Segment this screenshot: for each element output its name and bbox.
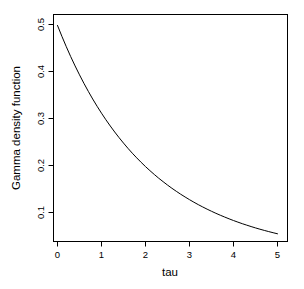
y-tick-label-0.2: 0.2 [35, 159, 46, 172]
y-axis-ticks [49, 25, 54, 213]
x-tick-label-2: 2 [143, 249, 148, 260]
gamma-density-plot: 0 1 2 3 4 5 0.1 0.2 0.3 0.4 0.5 tau Gamm… [0, 0, 304, 289]
y-tick-label-0.1: 0.1 [35, 206, 46, 219]
x-tick-label-3: 3 [187, 249, 192, 260]
plot-frame [54, 15, 288, 242]
y-tick-label-0.3: 0.3 [35, 112, 46, 125]
x-tick-label-4: 4 [231, 249, 236, 260]
x-tick-label-5: 5 [275, 249, 280, 260]
x-tick-label-0: 0 [55, 249, 60, 260]
x-tick-label-1: 1 [99, 249, 104, 260]
chart-figure: 0 1 2 3 4 5 0.1 0.2 0.3 0.4 0.5 tau Gamm… [0, 0, 304, 289]
x-axis-tick-labels: 0 1 2 3 4 5 [55, 249, 280, 260]
y-tick-label-0.5: 0.5 [35, 18, 46, 31]
x-axis-title: tau [162, 266, 178, 278]
x-axis-ticks [58, 242, 278, 247]
y-tick-label-0.4: 0.4 [35, 65, 46, 78]
y-axis-title: Gamma density function [10, 66, 22, 190]
gamma-density-curve [58, 25, 278, 233]
y-axis-tick-labels: 0.1 0.2 0.3 0.4 0.5 [35, 18, 46, 219]
